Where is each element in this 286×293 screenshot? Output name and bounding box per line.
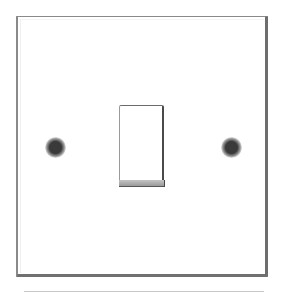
rocker-bottom-edge — [119, 180, 165, 187]
right-screw-icon — [221, 137, 242, 158]
left-screw-icon — [45, 137, 66, 158]
floor-shadow-line — [24, 291, 264, 292]
rocker-face — [119, 105, 164, 180]
rocker-switch[interactable] — [119, 105, 166, 187]
